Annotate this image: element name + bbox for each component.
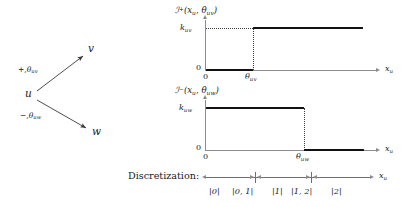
chart-inhibitory-x-axis-arrowhead <box>376 148 380 152</box>
edge-theta-uw-subscript: uw <box>33 114 41 120</box>
discretization-breakpoint-2-arrow-in-left <box>306 175 310 179</box>
chart-inhibitory-title: ℐ−(xu, θuw) <box>175 86 219 96</box>
edge-theta-uv-subscript: uv <box>31 68 37 74</box>
discretization-breakpoint-2-tick <box>311 172 312 183</box>
chart-excitatory-x-axis-arrowhead <box>376 68 380 72</box>
discretization-interval-0: |0| <box>209 187 220 195</box>
discretization-axis <box>206 177 371 178</box>
discretization-axis-label: xu <box>379 172 387 181</box>
chart-inhibitory-ytick-k-subscript: uw <box>184 107 192 113</box>
chart-excitatory-ytick-k: kuv <box>180 24 192 33</box>
chart-excitatory-title-close: ) <box>214 5 217 15</box>
chart-excitatory-step-high <box>253 27 363 30</box>
chart-inhibitory-xtick-threshold: θuw <box>296 153 309 162</box>
chart-excitatory-y-axis-arrowhead <box>203 15 207 19</box>
discretization-axis-arrowhead-left <box>202 175 206 179</box>
chart-excitatory-title-mid: , θ <box>196 5 207 15</box>
chart-excitatory-ytick-k-subscript: uv <box>185 27 192 33</box>
edge-sign-uv: +, <box>18 65 27 74</box>
chart-inhibitory-guide-vertical <box>304 108 305 150</box>
chart-excitatory-ytick-zero: 0 <box>196 64 201 72</box>
chart-inhibitory-xaxis-label-subscript: u <box>390 148 394 154</box>
edge-label-uv: +,θuv <box>18 66 38 75</box>
discretization-interval-0-1: |0, 1| <box>232 187 253 195</box>
chart-inhibitory-xtick-zero: 0 <box>203 153 208 161</box>
chart-inhibitory-title-openarg: (x <box>184 85 192 95</box>
chart-inhibitory-title-close: ) <box>216 85 219 95</box>
chart-excitatory-title-sub2: uv <box>207 10 214 16</box>
chart-inhibitory-y-axis-arrowhead <box>203 95 207 99</box>
discretization-interval-2: |2| <box>331 187 342 195</box>
chart-excitatory-xtick-threshold: θuv <box>245 73 257 82</box>
edge-u-to-v-arrow <box>37 56 83 91</box>
edge-label-uw: −,θuw <box>20 112 41 121</box>
chart-inhibitory-xtick-threshold-subscript: uw <box>301 156 309 162</box>
chart-excitatory-xaxis-label: xu <box>385 65 393 74</box>
discretization-label: Discretization: <box>128 171 199 181</box>
discretization-interval-1-2: |1, 2| <box>291 187 312 195</box>
discretization-interval-1: |1| <box>272 187 283 195</box>
chart-inhibitory-step-low <box>304 149 364 152</box>
chart-inhibitory-title-sub2: uw <box>207 90 216 96</box>
chart-excitatory-guide-vertical <box>253 28 254 70</box>
chart-inhibitory-step-high <box>206 107 304 110</box>
edge-u-to-w-arrow <box>37 100 86 128</box>
discretization-row: Discretization: xu |0| |0, 1| |1| |1, 2|… <box>0 168 404 204</box>
chart-excitatory-xaxis-label-subscript: u <box>390 68 394 74</box>
chart-excitatory-xtick-threshold-subscript: uv <box>250 76 257 82</box>
chart-inhibitory: ℐ−(xu, θuw) kuw 0 xu 0 θuw <box>165 84 401 164</box>
chart-excitatory-title: ℐ+(xu, θuv) <box>175 6 217 16</box>
chart-excitatory-xtick-zero: 0 <box>203 73 208 81</box>
edge-sign-uw: −, <box>20 111 29 120</box>
figure-root: u v w +,θuv −,θuw ℐ+(xu, θuv) kuv 0 <box>0 0 404 207</box>
chart-inhibitory-ytick-zero: 0 <box>196 144 201 152</box>
discretization-breakpoint-2-arrow-in-right <box>313 175 317 179</box>
chart-excitatory-title-openarg: (x <box>184 5 192 15</box>
discretization-breakpoint-1-arrow-in-right <box>257 175 261 179</box>
chart-inhibitory-ytick-k: kuw <box>179 104 192 113</box>
node-label-u: u <box>25 88 32 99</box>
chart-excitatory: ℐ+(xu, θuv) kuv 0 xu 0 θuv <box>165 4 401 82</box>
chart-inhibitory-xaxis-label: xu <box>385 145 393 154</box>
discretization-axis-label-subscript: u <box>384 175 388 181</box>
node-label-v: v <box>88 43 94 54</box>
chart-excitatory-guide-horizontal <box>206 28 253 29</box>
chart-inhibitory-title-mid: , θ <box>196 85 207 95</box>
edge-arrows-svg <box>0 28 150 138</box>
discretization-axis-arrowhead-right <box>370 175 374 179</box>
discretization-breakpoint-1-tick <box>255 172 256 183</box>
node-arrow-diagram: u v w +,θuv −,θuw <box>0 28 150 138</box>
chart-excitatory-step-low <box>206 69 253 72</box>
discretization-breakpoint-1-arrow-in-left <box>250 175 254 179</box>
node-label-w: w <box>92 126 101 137</box>
